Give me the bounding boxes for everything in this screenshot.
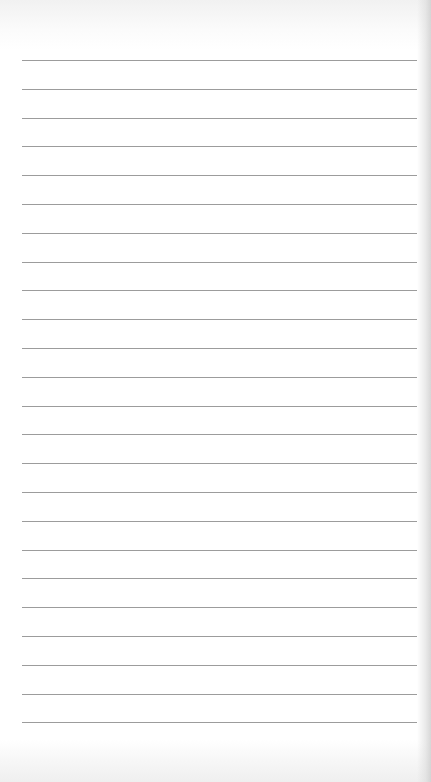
lined-paper-page: [0, 0, 431, 782]
ruled-line: [22, 262, 417, 263]
ruled-line: [22, 319, 417, 320]
ruled-line: [22, 204, 417, 205]
ruled-line: [22, 550, 417, 551]
ruled-line: [22, 146, 417, 147]
ruled-line: [22, 377, 417, 378]
ruled-line: [22, 694, 417, 695]
ruled-line: [22, 348, 417, 349]
ruled-line: [22, 492, 417, 493]
ruled-line: [22, 521, 417, 522]
ruled-line: [22, 636, 417, 637]
ruled-line: [22, 175, 417, 176]
ruled-line: [22, 607, 417, 608]
ruled-line: [22, 118, 417, 119]
ruled-line: [22, 434, 417, 435]
ruled-line: [22, 463, 417, 464]
ruled-line: [22, 665, 417, 666]
ruled-line: [22, 578, 417, 579]
ruled-line: [22, 60, 417, 61]
ruled-line: [22, 290, 417, 291]
ruled-line: [22, 406, 417, 407]
ruled-line: [22, 722, 417, 723]
page-edge-shadow: [417, 0, 431, 782]
ruled-line: [22, 89, 417, 90]
ruled-line: [22, 233, 417, 234]
